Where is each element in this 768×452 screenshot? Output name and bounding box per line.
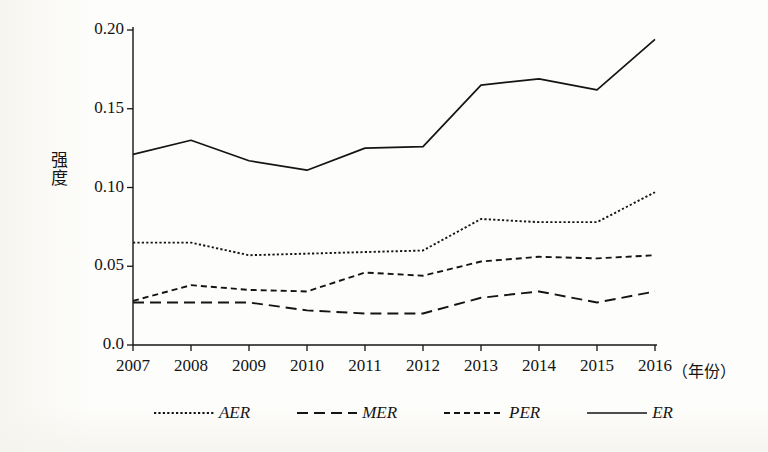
y-axis-title-char: 度 [44, 170, 74, 188]
chart-legend: AERMERPERER [133, 398, 693, 428]
legend-line-swatch [153, 407, 215, 419]
legend-item-label: MER [362, 403, 397, 423]
legend-item-aer: AER [153, 403, 250, 423]
legend-item-label: PER [509, 403, 540, 423]
chart-plot-area [0, 0, 768, 452]
x-axis-tick-label: 2007 [103, 356, 163, 376]
x-axis-tick-label: 2011 [335, 356, 395, 376]
legend-item-mer: MER [296, 403, 397, 423]
chart-series-lines [133, 39, 655, 313]
legend-line-swatch [443, 407, 505, 419]
y-axis-tick-label: 0.15 [60, 98, 124, 118]
series-line-er [133, 39, 655, 170]
y-axis-tick-label: 0.20 [60, 19, 124, 39]
legend-item-label: ER [652, 403, 673, 423]
x-axis-tick-label: 2008 [161, 356, 221, 376]
y-axis-tick-label: 0.05 [60, 255, 124, 275]
x-axis-tick-label: 2009 [219, 356, 279, 376]
x-axis-title: （年份） [672, 358, 736, 382]
series-line-per [133, 255, 655, 301]
x-axis-tick-label: 2015 [567, 356, 627, 376]
x-axis-tick-label: 2014 [509, 356, 569, 376]
series-line-aer [133, 192, 655, 255]
legend-item-per: PER [443, 403, 540, 423]
series-line-mer [133, 291, 655, 313]
legend-line-swatch [586, 407, 648, 419]
line-chart-figure: 0.00.050.100.150.20 20072008200920102011… [0, 0, 768, 452]
x-axis-tick-label: 2010 [277, 356, 337, 376]
legend-item-er: ER [586, 403, 673, 423]
y-axis-tick-label: 0.0 [60, 334, 124, 354]
y-axis-title-char: 强 [44, 152, 74, 170]
legend-item-label: AER [219, 403, 250, 423]
y-axis-title: 强度 [44, 152, 74, 189]
x-axis-tick-label: 2012 [393, 356, 453, 376]
x-axis-tick-label: 2013 [451, 356, 511, 376]
legend-line-swatch [296, 407, 358, 419]
